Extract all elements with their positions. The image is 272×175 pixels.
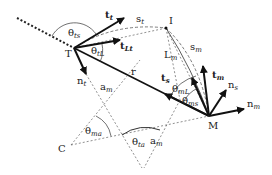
point-M: M — [208, 121, 218, 131]
label-a-m-upper: am — [100, 82, 113, 94]
point-I: I — [169, 16, 173, 26]
label-theta-ms: θms — [182, 96, 198, 108]
label-r: r — [131, 67, 136, 77]
label-n-m: nm — [247, 99, 260, 111]
label-t-s: ts — [161, 73, 170, 84]
vector-n-m — [209, 109, 244, 116]
label-L-m: Lm — [164, 50, 177, 62]
label-theta-ts: θts — [68, 28, 80, 40]
label-t-Lt: tLt — [120, 41, 133, 52]
label-n-t: nt — [77, 76, 86, 88]
label-theta-ta: θta — [132, 137, 145, 149]
label-t-t: tt — [105, 10, 113, 21]
label-s-t: st — [136, 14, 144, 26]
label-a-m-lower: am — [150, 136, 163, 148]
label-t-m: tm — [212, 70, 224, 81]
point-C: C — [58, 144, 66, 154]
point-T: T — [65, 49, 72, 59]
label-theta-tL: θtL — [91, 46, 105, 58]
label-n-s: ns — [228, 80, 238, 92]
label-s-m: sm — [190, 42, 202, 54]
target-past-path — [17, 18, 74, 48]
label-theta-ma: θma — [85, 126, 102, 138]
